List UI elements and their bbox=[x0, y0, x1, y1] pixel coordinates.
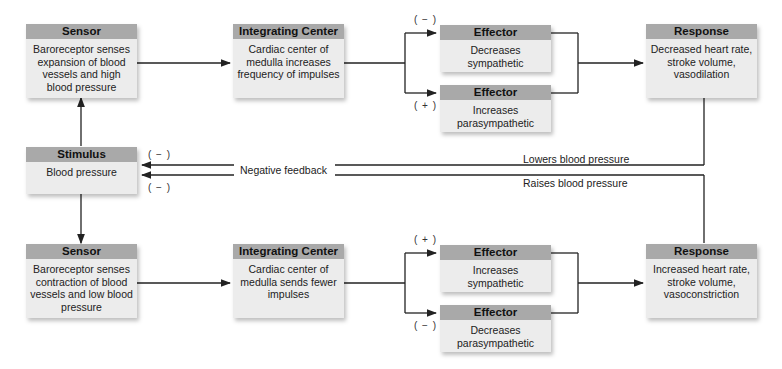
response-box-increased: Response Increased heart rate, stroke vo… bbox=[646, 244, 757, 318]
box-body: Baroreceptor senses expansion of blood v… bbox=[26, 39, 137, 97]
negative-feedback-label: Negative feedback bbox=[240, 164, 327, 176]
box-header: Effector bbox=[440, 85, 551, 100]
sign-minus: ( − ) bbox=[414, 14, 437, 25]
lowers-bp-label: Lowers blood pressure bbox=[523, 153, 629, 165]
sensor-box-high: Sensor Baroreceptor senses expansion of … bbox=[26, 24, 137, 98]
box-header: Effector bbox=[440, 245, 551, 260]
effector-box-increases-parasympathetic: Effector Increases parasympathetic bbox=[440, 85, 551, 132]
raises-bp-label: Raises blood pressure bbox=[523, 177, 627, 189]
integrating-center-box-high: Integrating Center Cardiac center of med… bbox=[233, 24, 344, 98]
sign-minus-bottom: ( − ) bbox=[148, 182, 171, 193]
sign-plus: ( + ) bbox=[414, 234, 437, 245]
box-body: Increases parasympathetic bbox=[440, 100, 551, 133]
sign-minus-top: ( − ) bbox=[148, 149, 171, 160]
box-body: Baroreceptor senses contraction of blood… bbox=[26, 259, 137, 317]
box-header: Sensor bbox=[26, 24, 137, 39]
box-header: Integrating Center bbox=[233, 24, 344, 39]
box-header: Sensor bbox=[26, 244, 137, 259]
box-body: Decreases sympathetic bbox=[440, 40, 551, 73]
box-body: Cardiac center of medulla increases freq… bbox=[233, 39, 344, 85]
sign-plus: ( + ) bbox=[414, 100, 437, 111]
stimulus-box: Stimulus Blood pressure bbox=[26, 147, 137, 194]
effector-box-decreases-sympathetic: Effector Decreases sympathetic bbox=[440, 25, 551, 72]
box-header: Response bbox=[646, 244, 757, 259]
integrating-center-box-low: Integrating Center Cardiac center of med… bbox=[233, 244, 344, 318]
box-header: Stimulus bbox=[26, 147, 137, 162]
sensor-box-low: Sensor Baroreceptor senses contraction o… bbox=[26, 244, 137, 318]
sign-minus: ( − ) bbox=[414, 320, 437, 331]
box-body: Increases sympathetic bbox=[440, 260, 551, 293]
box-body: Decreased heart rate, stroke volume, vas… bbox=[646, 39, 757, 85]
box-header: Effector bbox=[440, 305, 551, 320]
box-body: Decreases parasympathetic bbox=[440, 320, 551, 353]
response-box-decreased: Response Decreased heart rate, stroke vo… bbox=[646, 24, 757, 98]
box-header: Integrating Center bbox=[233, 244, 344, 259]
box-body: Increased heart rate, stroke volume, vas… bbox=[646, 259, 757, 305]
box-body: Cardiac center of medulla sends fewer im… bbox=[233, 259, 344, 305]
box-header: Response bbox=[646, 24, 757, 39]
box-header: Effector bbox=[440, 25, 551, 40]
effector-box-increases-sympathetic: Effector Increases sympathetic bbox=[440, 245, 551, 292]
box-body: Blood pressure bbox=[26, 162, 137, 183]
effector-box-decreases-parasympathetic: Effector Decreases parasympathetic bbox=[440, 305, 551, 352]
